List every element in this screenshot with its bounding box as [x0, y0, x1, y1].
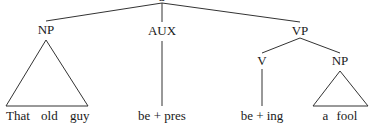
node-s-label: S [158, 0, 165, 3]
np-subject-triangle [6, 40, 88, 106]
node-vp-label: VP [292, 24, 309, 37]
node-np-subject-label: NP [38, 23, 55, 36]
leaf-word-guy: guy [70, 109, 90, 122]
node-aux-label: AUX [148, 24, 176, 37]
edge-s-np [46, 3, 162, 21]
node-np-object-label: NP [332, 54, 349, 67]
leaf-word-a: a [323, 109, 329, 122]
syntax-tree-diagram: S NP AUX VP V NP That old guy be + pres … [0, 0, 371, 124]
leaf-aux: be + pres [138, 109, 186, 122]
edge-vp-np [300, 38, 340, 53]
leaf-word-fool: fool [337, 109, 358, 122]
leaf-object: a fool [323, 109, 358, 122]
edge-s-vp [162, 3, 300, 22]
edge-vp-v [262, 38, 300, 53]
leaf-word-old: old [41, 109, 58, 122]
leaf-v: be + ing [241, 109, 284, 122]
node-v-label: V [257, 54, 266, 67]
leaf-word-that: That [6, 109, 30, 122]
np-object-triangle [313, 71, 368, 106]
tree-edges [0, 0, 371, 124]
leaf-subject: That old guy [6, 109, 89, 122]
